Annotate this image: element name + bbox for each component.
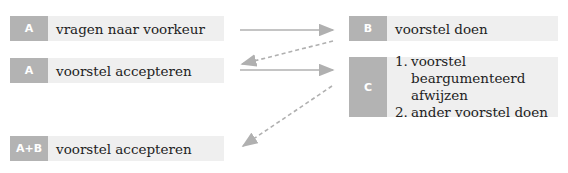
arrows-layer — [0, 0, 568, 173]
arrow-b-to-a — [242, 41, 333, 64]
arrow-c-to-ab — [243, 86, 332, 146]
